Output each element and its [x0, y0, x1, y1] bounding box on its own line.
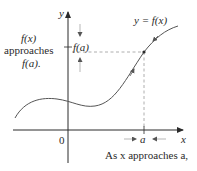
bottom-annotation-text: As x approaches a,	[105, 149, 188, 161]
curve-label: y = f(x)	[133, 14, 167, 27]
function-curve	[15, 26, 178, 118]
fa-label: f(a)	[73, 41, 89, 54]
y-axis-label: y	[58, 7, 64, 19]
a-label: a	[140, 133, 146, 145]
limit-diagram: y x 0 y = f(x) f(x) approaches f(a). f(a…	[0, 0, 197, 171]
origin-label: 0	[59, 134, 65, 146]
left-annotation-line3: f(a).	[22, 57, 41, 70]
x-axis-label: x	[180, 133, 186, 145]
bottom-annotation: As x approaches a,	[105, 149, 188, 161]
left-annotation-line2: approaches	[4, 44, 53, 56]
point-a-fa	[142, 50, 145, 53]
